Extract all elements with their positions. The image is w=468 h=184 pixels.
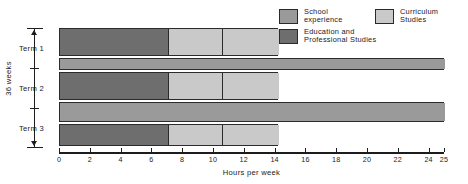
y-axis-label-weeks: 36 weeks xyxy=(4,61,13,95)
x-axis-tick-label-24: 24 xyxy=(424,156,432,164)
x-axis-tick-0 xyxy=(59,148,60,152)
term-divider-tick-2 xyxy=(30,108,39,109)
bar-segment-curriculum-studies xyxy=(169,29,223,55)
bar-segment-curriculum-studies xyxy=(169,73,223,99)
x-axis-title: Hours per week xyxy=(59,168,444,177)
x-axis: 02468101214161820222425 xyxy=(59,152,444,154)
x-axis-tick-label-20: 20 xyxy=(363,156,371,164)
x-axis-tick-8 xyxy=(182,148,183,152)
weeks-bracket-arrow-top xyxy=(31,30,37,35)
x-axis-tick-4 xyxy=(121,148,122,152)
x-axis-tick-14 xyxy=(275,148,276,152)
plot-area xyxy=(59,28,444,148)
x-axis-tick-label-8: 8 xyxy=(180,156,184,164)
x-axis-tick-label-2: 2 xyxy=(88,156,92,164)
bar-segment-education-and-professional-studies xyxy=(60,29,169,55)
x-axis-tick-label-6: 6 xyxy=(149,156,153,164)
x-axis-tick-16 xyxy=(305,148,306,152)
bar-term-1-row-1 xyxy=(59,28,278,56)
weeks-bracket-cap-bottom xyxy=(27,147,43,148)
legend-swatch-school-experience xyxy=(279,9,298,24)
x-axis-tick-6 xyxy=(151,148,152,152)
weeks-bracket-cap-top xyxy=(27,28,43,29)
bar-term-3-row-2 xyxy=(59,124,278,146)
x-axis-tick-label-14: 14 xyxy=(270,156,278,164)
x-axis-tick-label-4: 4 xyxy=(118,156,122,164)
x-axis-tick-24 xyxy=(429,148,430,152)
bar-segment-education-and-professional-studies xyxy=(60,125,169,145)
bar-segment-curriculum-studies xyxy=(169,125,223,145)
stacked-bar-chart: School experience Curriculum Studies Edu… xyxy=(0,0,468,184)
bar-segment-school-experience xyxy=(60,103,445,121)
x-axis-tick-20 xyxy=(367,148,368,152)
bar-term-1-row-2 xyxy=(59,58,444,70)
x-axis-tick-2 xyxy=(90,148,91,152)
x-axis-tick-label-22: 22 xyxy=(394,156,402,164)
x-axis-tick-label-25: 25 xyxy=(440,156,448,164)
legend-item-curriculum-studies: Curriculum Studies xyxy=(375,8,438,25)
x-axis-tick-label-0: 0 xyxy=(57,156,61,164)
weeks-bracket-arrow-bottom xyxy=(31,141,37,146)
x-axis-tick-22 xyxy=(398,148,399,152)
x-axis-tick-label-18: 18 xyxy=(332,156,340,164)
legend-label-school-experience: School experience xyxy=(304,8,343,25)
x-axis-tick-10 xyxy=(213,148,214,152)
bar-segment-school-experience xyxy=(60,59,445,69)
legend-swatch-curriculum-studies xyxy=(375,9,394,24)
bar-term-3-row-1 xyxy=(59,102,444,122)
x-axis-tick-18 xyxy=(336,148,337,152)
x-axis-tick-label-10: 10 xyxy=(209,156,217,164)
x-axis-tick-25 xyxy=(444,148,445,152)
x-axis-tick-label-12: 12 xyxy=(240,156,248,164)
bar-term-2-row-1 xyxy=(59,72,278,100)
legend-label-curriculum-studies: Curriculum Studies xyxy=(400,8,438,25)
bar-segment-curriculum-studies xyxy=(223,29,278,55)
term-label-term-3: Term 3 xyxy=(19,124,44,133)
term-label-term-2: Term 2 xyxy=(19,84,44,93)
term-divider-tick-1 xyxy=(30,68,39,69)
x-axis-tick-label-16: 16 xyxy=(301,156,309,164)
bar-segment-curriculum-studies xyxy=(223,73,278,99)
bar-segment-curriculum-studies xyxy=(223,125,278,145)
x-axis-tick-12 xyxy=(244,148,245,152)
bar-segment-education-and-professional-studies xyxy=(60,73,169,99)
legend-item-school-experience: School experience xyxy=(279,8,343,25)
term-label-term-1: Term 1 xyxy=(19,44,44,53)
